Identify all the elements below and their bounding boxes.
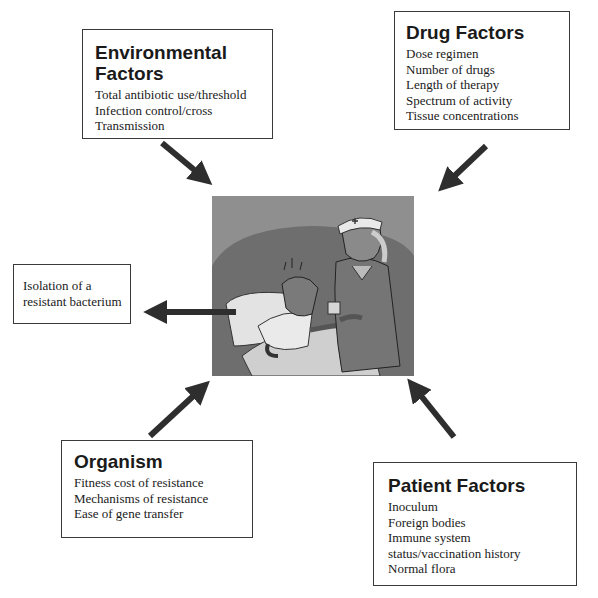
patient-factors-list: Inoculum Foreign bodies Immune system st… — [388, 499, 576, 577]
title-line-1: Environmental — [95, 42, 227, 63]
arrow-patient-to-center — [414, 387, 454, 437]
list-item: Number of drugs — [406, 62, 569, 78]
arrow-environmental-to-center — [162, 143, 204, 178]
arrow-drug-to-center — [446, 146, 486, 184]
isolation-box: Isolation of a resistant bacterium — [13, 264, 131, 324]
list-item: Length of therapy — [406, 77, 569, 93]
isolation-line-2: resistant bacterium — [23, 294, 122, 309]
list-item: Normal flora — [388, 561, 576, 577]
list-item: Foreign bodies — [388, 515, 576, 531]
isolation-line-1: Isolation of a — [23, 278, 92, 293]
drug-factors-title: Drug Factors — [406, 22, 569, 43]
list-item: Tissue concentrations — [406, 108, 569, 124]
list-item: Fitness cost of resistance — [74, 475, 252, 491]
list-item: Ease of gene transfer — [74, 506, 252, 522]
list-item: Inoculum — [388, 499, 576, 515]
environmental-factors-list: Total antibiotic use/threshold Infection… — [95, 87, 272, 134]
patient-nurse-illustration — [212, 196, 414, 376]
list-item: Spectrum of activity — [406, 93, 569, 109]
list-item: status/vaccination history — [388, 546, 576, 562]
list-item: Dose regimen — [406, 46, 569, 62]
organism-box: Organism Fitness cost of resistance Mech… — [61, 440, 253, 538]
title-line-2: Factors — [95, 63, 164, 84]
list-item: Transmission — [95, 118, 272, 134]
patient-factors-title: Patient Factors — [388, 475, 576, 496]
drug-factors-box: Drug Factors Dose regimen Number of drug… — [394, 11, 570, 130]
list-item: Mechanisms of resistance — [74, 491, 252, 507]
list-item: Total antibiotic use/threshold — [95, 87, 272, 103]
organism-list: Fitness cost of resistance Mechanisms of… — [74, 475, 252, 522]
illustration-art — [212, 196, 414, 376]
patient-factors-box: Patient Factors Inoculum Foreign bodies … — [373, 462, 577, 586]
environmental-factors-box: Environmental Factors Total antibiotic u… — [82, 29, 273, 139]
drug-factors-list: Dose regimen Number of drugs Length of t… — [406, 46, 569, 124]
environmental-factors-title: Environmental Factors — [95, 42, 272, 84]
list-item: Infection control/cross — [95, 103, 272, 119]
arrow-organism-to-center — [150, 388, 202, 436]
organism-title: Organism — [74, 451, 252, 472]
list-item: Immune system — [388, 530, 576, 546]
